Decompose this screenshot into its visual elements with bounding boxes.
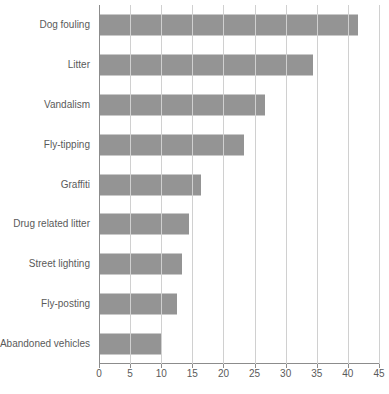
gridline bbox=[348, 5, 349, 364]
category-label: Abandoned vehicles bbox=[0, 338, 90, 350]
x-axis-tick-label: 30 bbox=[280, 368, 291, 380]
gridline bbox=[223, 5, 224, 364]
gridline bbox=[317, 5, 318, 364]
gridline bbox=[286, 5, 287, 364]
bar[interactable] bbox=[100, 254, 182, 275]
category-label: Litter bbox=[68, 59, 90, 71]
x-axis-tick-label: 0 bbox=[96, 368, 102, 380]
category-label: Street lighting bbox=[29, 258, 90, 270]
x-axis-tick-label: 25 bbox=[249, 368, 260, 380]
category-label: Fly-tipping bbox=[44, 139, 90, 151]
y-axis-line bbox=[99, 5, 100, 364]
x-axis-tick-label: 20 bbox=[218, 368, 229, 380]
bar-chart: Dog foulingLitterVandalismFly-tippingGra… bbox=[0, 0, 389, 394]
category-axis-labels: Dog foulingLitterVandalismFly-tippingGra… bbox=[0, 5, 95, 364]
x-axis-tick-label: 40 bbox=[342, 368, 353, 380]
gridline bbox=[379, 5, 380, 364]
gridline bbox=[255, 5, 256, 364]
category-label: Vandalism bbox=[44, 99, 90, 111]
gridline bbox=[192, 5, 193, 364]
x-axis-line bbox=[99, 363, 380, 364]
bar[interactable] bbox=[100, 214, 189, 235]
x-axis-tick-label: 5 bbox=[127, 368, 133, 380]
bar[interactable] bbox=[100, 294, 177, 315]
x-axis-tick-label: 10 bbox=[156, 368, 167, 380]
plot-area bbox=[99, 5, 379, 364]
x-axis-tick-label: 35 bbox=[311, 368, 322, 380]
category-label: Drug related litter bbox=[13, 218, 90, 230]
x-axis-tick-label: 15 bbox=[187, 368, 198, 380]
bar[interactable] bbox=[100, 54, 313, 75]
bar[interactable] bbox=[100, 94, 265, 115]
gridline bbox=[130, 5, 131, 364]
category-label: Dog fouling bbox=[39, 19, 90, 31]
category-label: Graffiti bbox=[61, 179, 90, 191]
x-axis-tick-label: 45 bbox=[373, 368, 384, 380]
bar[interactable] bbox=[100, 334, 162, 355]
bar[interactable] bbox=[100, 14, 358, 35]
gridline bbox=[161, 5, 162, 364]
bar[interactable] bbox=[100, 174, 201, 195]
category-label: Fly-posting bbox=[41, 298, 90, 310]
